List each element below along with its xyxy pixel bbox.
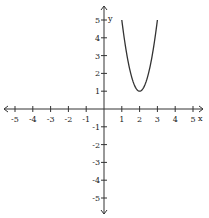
parabola-curve bbox=[122, 20, 158, 91]
y-tick-label: 3 bbox=[95, 52, 100, 61]
y-tick-label: -5 bbox=[92, 194, 100, 203]
x-tick-label: 4 bbox=[173, 115, 178, 124]
x-tick-label: -4 bbox=[29, 115, 37, 124]
x-axis-label: x bbox=[198, 114, 203, 123]
x-tick-label: 5 bbox=[190, 115, 195, 124]
axes bbox=[4, 6, 203, 214]
x-tick-label: 1 bbox=[119, 115, 124, 124]
y-tick-label: 2 bbox=[95, 69, 100, 78]
y-tick-label: -3 bbox=[92, 158, 100, 167]
y-tick-label: -4 bbox=[92, 176, 100, 185]
x-tick-label: -2 bbox=[65, 115, 73, 124]
y-tick-label: -1 bbox=[92, 123, 100, 132]
x-tick-label: -5 bbox=[11, 115, 19, 124]
coordinate-plane: -5-4-3-2-112345-5-4-3-2-112345 x y bbox=[0, 0, 209, 218]
x-tick-label: 2 bbox=[137, 115, 142, 124]
y-axis-label: y bbox=[107, 14, 113, 23]
y-tick-label: -2 bbox=[92, 141, 100, 150]
x-tick-label: 3 bbox=[155, 115, 160, 124]
x-tick-label: -3 bbox=[47, 115, 55, 124]
x-tick-label: -1 bbox=[82, 115, 90, 124]
y-tick-label: 5 bbox=[95, 16, 100, 25]
y-tick-label: 1 bbox=[95, 87, 100, 96]
y-tick-label: 4 bbox=[95, 34, 100, 43]
